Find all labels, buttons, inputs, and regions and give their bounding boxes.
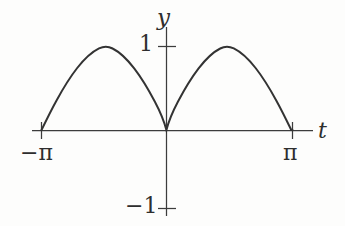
y-tick-label-negative-one: −1: [125, 195, 157, 217]
x-tick-label-pi: π: [283, 142, 297, 164]
y-axis-label: y: [157, 6, 170, 29]
y-tick-label-one: 1: [139, 33, 153, 55]
plot-canvas: [0, 0, 345, 226]
t-axis-label: t: [318, 120, 327, 142]
x-tick-label-negative-pi: −π: [20, 142, 53, 164]
figure-container: y t 1 −1 −π π: [0, 0, 345, 226]
